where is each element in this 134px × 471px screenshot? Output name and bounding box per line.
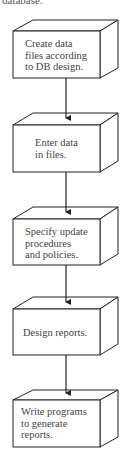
step-3-line-2: procedures <box>25 238 88 250</box>
step-1-line-3: to DB design. <box>25 61 87 73</box>
step-box-4 <box>13 297 118 355</box>
step-5-line-1: Write programs <box>21 406 87 418</box>
step-1-line-1: Create data <box>25 38 87 50</box>
step-1-label: Create data files according to DB design… <box>25 38 87 73</box>
step-1-line-2: files according <box>25 50 87 62</box>
step-3-line-3: and policies. <box>25 249 88 261</box>
step-3-label: Specify update procedures and policies. <box>25 226 88 261</box>
step-2-line-2: in files. <box>35 149 78 161</box>
step-5-line-2: to generate <box>21 418 87 430</box>
step-4-line-1: Design reports. <box>23 327 87 339</box>
step-5-line-3: reports. <box>21 429 87 441</box>
step-2-label: Enter data in files. <box>35 137 78 160</box>
step-2-line-1: Enter data <box>35 137 78 149</box>
step-5-label: Write programs to generate reports. <box>21 406 87 441</box>
step-3-line-1: Specify update <box>25 226 88 238</box>
step-4-label: Design reports. <box>23 327 87 339</box>
